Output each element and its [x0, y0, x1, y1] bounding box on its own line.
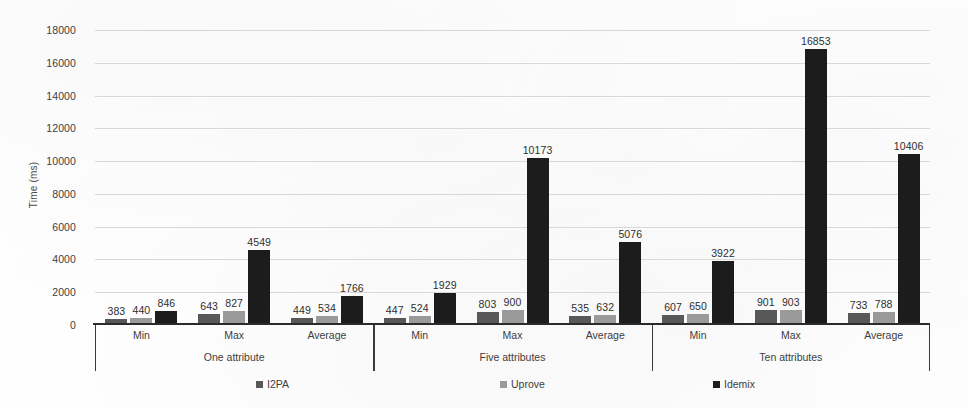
y-tick-label: 0: [24, 319, 76, 331]
group-label: One attribute: [95, 351, 373, 369]
gridline: [95, 30, 930, 31]
legend-item-idemix[interactable]: Idemix: [713, 378, 755, 390]
category-label-min: Min: [652, 329, 745, 349]
category-label-average: Average: [837, 329, 930, 349]
legend-swatch-icon: [256, 381, 263, 388]
bar-value-label: 650: [689, 300, 707, 312]
group-separator: [652, 325, 653, 371]
y-tick-label: 10000: [24, 155, 76, 167]
y-tick-label: 4000: [24, 253, 76, 265]
category-label-max: Max: [744, 329, 837, 349]
bar-value-label: 846: [157, 297, 175, 309]
bar-value-label: 643: [200, 300, 218, 312]
legend-label: Uprove: [511, 378, 545, 390]
legend-item-uprove[interactable]: Uprove: [500, 378, 545, 390]
bar-idemix-average: 1766: [341, 296, 363, 325]
bar-value-label: 383: [107, 305, 125, 317]
bar-value-label: 16853: [801, 35, 831, 47]
legend-label: I2PA: [267, 378, 289, 390]
legend-label: Idemix: [724, 378, 755, 390]
chart-legend: I2PAUproveIdemix: [0, 378, 968, 400]
y-tick-label: 18000: [24, 24, 76, 36]
bar-value-label: 440: [132, 304, 150, 316]
group-separator: [95, 325, 96, 371]
category-label-max: Max: [188, 329, 281, 349]
category-axis: MinMaxAverageOne attributeMinMaxAverageF…: [95, 325, 930, 373]
bar-value-label: 449: [293, 304, 311, 316]
y-tick-label: 8000: [24, 188, 76, 200]
bar-idemix-average: 10406: [898, 154, 920, 325]
bar-value-label: 827: [225, 297, 243, 309]
legend-swatch-icon: [500, 381, 507, 388]
y-tick-label: 14000: [24, 90, 76, 102]
category-label-min: Min: [373, 329, 466, 349]
bar-value-label: 788: [875, 298, 893, 310]
bar-value-label: 10406: [894, 140, 924, 152]
category-label-average: Average: [559, 329, 652, 349]
bar-idemix-min: 3922: [712, 261, 734, 325]
bar-value-label: 900: [504, 296, 522, 308]
bar-idemix-max: 4549: [248, 250, 270, 325]
bar-idemix-average: 5076: [619, 242, 641, 325]
group-separator: [373, 325, 374, 371]
bar-value-label: 3922: [711, 247, 735, 259]
bar-value-label: 535: [571, 302, 589, 314]
bar-value-label: 524: [411, 302, 429, 314]
bar-idemix-min: 1929: [434, 293, 456, 325]
bar-chart: Time (ms) 020004000600080001000012000140…: [0, 0, 968, 408]
bar-idemix-max: 10173: [527, 158, 549, 325]
legend-swatch-icon: [713, 381, 720, 388]
y-tick-label: 6000: [24, 221, 76, 233]
bar-value-label: 447: [386, 304, 404, 316]
bar-value-label: 10173: [523, 144, 553, 156]
y-axis-tick-labels: 0200040006000800010000120001400016000180…: [8, 0, 76, 408]
y-tick-label: 16000: [24, 57, 76, 69]
bar-value-label: 733: [850, 299, 868, 311]
group-label: Ten attributes: [652, 351, 930, 369]
bar-value-label: 534: [318, 302, 336, 314]
bar-value-label: 803: [479, 298, 497, 310]
bar-value-label: 607: [664, 301, 682, 313]
group-label: Five attributes: [373, 351, 651, 369]
y-tick-label: 12000: [24, 122, 76, 134]
bar-value-label: 1766: [340, 282, 364, 294]
bar-value-label: 632: [596, 301, 614, 313]
category-label-min: Min: [95, 329, 188, 349]
group-separator: [929, 325, 930, 371]
bar-value-label: 1929: [433, 279, 457, 291]
category-label-average: Average: [281, 329, 374, 349]
legend-item-i2pa[interactable]: I2PA: [256, 378, 289, 390]
plot-area: 3834408466438274549449534176644752419298…: [95, 30, 930, 325]
bar-value-label: 901: [757, 296, 775, 308]
y-tick-label: 2000: [24, 286, 76, 298]
bar-value-label: 903: [782, 296, 800, 308]
bar-value-label: 5076: [618, 228, 642, 240]
category-label-max: Max: [466, 329, 559, 349]
bar-value-label: 4549: [247, 236, 271, 248]
bar-idemix-max: 16853: [805, 49, 827, 325]
